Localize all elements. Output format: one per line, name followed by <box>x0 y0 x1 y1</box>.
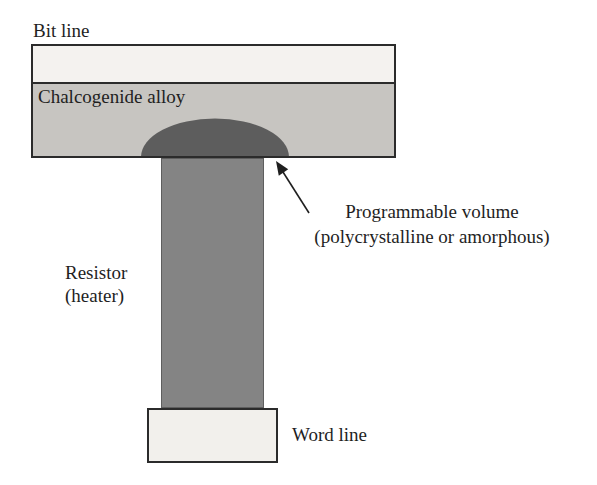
resistor-label-line1: Resistor <box>65 261 127 284</box>
bit-line-layer <box>31 44 396 84</box>
resistor-heater-pillar <box>161 158 264 408</box>
chalcogenide-label: Chalcogenide alloy <box>38 85 185 108</box>
pcm-cell-diagram: Bit line Chalcogenide alloy Resistor (he… <box>0 0 597 485</box>
programmable-volume-label-line2: (polycrystalline or amorphous) <box>287 224 577 249</box>
word-line-label: Word line <box>292 423 367 446</box>
resistor-label-line2: (heater) <box>65 284 127 307</box>
programmable-volume-label: Programmable volume (polycrystalline or … <box>287 199 577 249</box>
annotation-arrowhead <box>276 161 288 176</box>
bit-line-label: Bit line <box>33 19 89 42</box>
programmable-volume-label-line1: Programmable volume <box>287 199 577 224</box>
word-line-block <box>147 408 278 463</box>
resistor-label: Resistor (heater) <box>65 261 127 307</box>
